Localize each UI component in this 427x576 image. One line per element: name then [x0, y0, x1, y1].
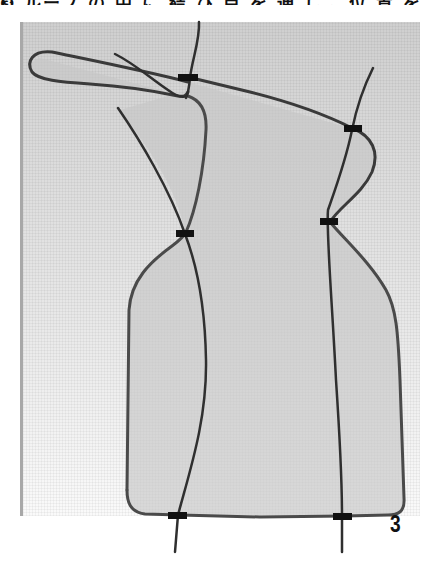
bottom-left-marker: [168, 512, 187, 519]
top-left-marker: [178, 74, 198, 81]
middle-left-marker: [176, 230, 194, 237]
top-right-marker: [344, 125, 362, 132]
bottom-right-marker: [333, 513, 352, 520]
string-diagram: [0, 0, 427, 576]
middle-right-marker: [320, 218, 338, 225]
step-number-label: 3: [390, 510, 401, 538]
